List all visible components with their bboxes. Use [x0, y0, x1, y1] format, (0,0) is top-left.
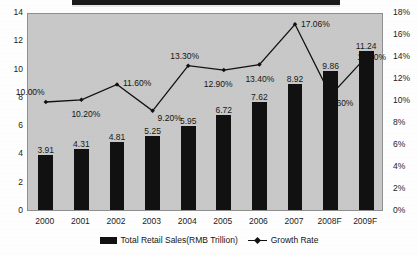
bar-2003	[145, 136, 160, 210]
y-left-tick: 14	[3, 8, 23, 17]
y-axis-right: 0%2%4%6%8%10%12%14%16%18%	[387, 0, 418, 255]
bar-2005	[216, 115, 231, 210]
chart-plot-area: 3.914.314.815.255.956.727.628.929.8611.2…	[27, 13, 383, 211]
bar-2001	[74, 149, 89, 210]
y-left-tick: 2	[3, 178, 23, 187]
bar-2002	[110, 142, 125, 210]
y-right-tick: 14%	[393, 52, 410, 61]
chart-legend: Total Retail Sales(RMB Trillion) Growth …	[0, 232, 418, 248]
y-left-tick: 12	[3, 36, 23, 45]
bar-value-label-2004: 5.95	[180, 117, 197, 126]
legend-entry-growth-rate: Growth Rate	[248, 235, 319, 245]
title-band-shadow	[72, 5, 340, 7]
bar-value-label-2002: 4.81	[109, 133, 126, 142]
y-left-tick: 4	[3, 149, 23, 158]
y-left-tick: 8	[3, 93, 23, 102]
y-right-tick: 4%	[393, 162, 405, 171]
bar-value-label-2008F: 9.86	[322, 62, 339, 71]
x-axis-tick: 2008F	[318, 216, 342, 226]
y-right-tick: 2%	[393, 184, 405, 193]
bar-2004	[181, 126, 196, 210]
bar-value-label-2000: 3.91	[38, 146, 55, 155]
bar-2009F	[359, 51, 374, 210]
plot-inner: 3.914.314.815.255.956.727.628.929.8611.2…	[28, 14, 382, 210]
legend-label-total-retail-sales: Total Retail Sales(RMB Trillion)	[121, 235, 238, 245]
bar-swatch-icon	[100, 237, 117, 244]
y-right-tick: 18%	[393, 8, 410, 17]
y-right-tick: 8%	[393, 118, 405, 127]
bar-value-label-2003: 5.25	[144, 127, 161, 136]
x-axis: 200020012002200320042005200620072008F200…	[27, 214, 383, 228]
x-axis-tick: 2004	[178, 216, 197, 226]
x-axis-tick: 2000	[35, 216, 54, 226]
line-marker-swatch-icon	[248, 237, 267, 244]
y-axis-left: 02468101214	[0, 0, 23, 255]
bar-2008F	[323, 71, 338, 210]
x-axis-tick: 2007	[285, 216, 304, 226]
bar-value-label-2001: 4.31	[73, 140, 90, 149]
x-axis-tick: 2003	[142, 216, 161, 226]
y-right-tick: 16%	[393, 30, 410, 39]
x-axis-tick: 2002	[107, 216, 126, 226]
y-right-tick: 12%	[393, 74, 410, 83]
bar-2000	[38, 155, 53, 210]
x-axis-tick: 2005	[213, 216, 232, 226]
y-right-tick: 6%	[393, 140, 405, 149]
x-axis-tick: 2006	[249, 216, 268, 226]
bar-value-label-2007: 8.92	[287, 75, 304, 84]
x-axis-tick: 2009F	[353, 216, 377, 226]
y-right-tick: 10%	[393, 96, 410, 105]
bar-2006	[252, 102, 267, 210]
bar-value-label-2006: 7.62	[251, 93, 268, 102]
bar-value-label-2005: 6.72	[216, 106, 233, 115]
legend-entry-total-retail-sales: Total Retail Sales(RMB Trillion)	[100, 235, 238, 245]
y-right-tick: 0%	[393, 206, 405, 215]
y-left-tick: 0	[3, 206, 23, 215]
y-left-tick: 6	[3, 121, 23, 130]
bar-2007	[288, 84, 303, 210]
legend-label-growth-rate: Growth Rate	[271, 235, 319, 245]
y-left-tick: 10	[3, 65, 23, 74]
bar-value-label-2009F: 11.24	[356, 42, 377, 51]
x-axis-tick: 2001	[71, 216, 90, 226]
